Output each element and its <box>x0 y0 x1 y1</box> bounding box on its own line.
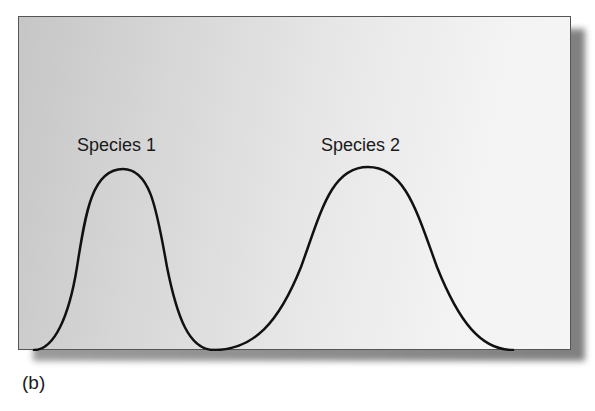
species-1-label: Species 1 <box>77 136 156 154</box>
figure: Species 1 Species 2 (b) <box>0 0 595 411</box>
species-1-curve <box>34 169 214 350</box>
species-2-curve <box>214 167 513 350</box>
figure-caption: (b) <box>22 373 45 392</box>
species-2-label: Species 2 <box>321 136 400 154</box>
distribution-curves <box>19 17 572 351</box>
diagram-panel: Species 1 Species 2 <box>18 16 571 350</box>
